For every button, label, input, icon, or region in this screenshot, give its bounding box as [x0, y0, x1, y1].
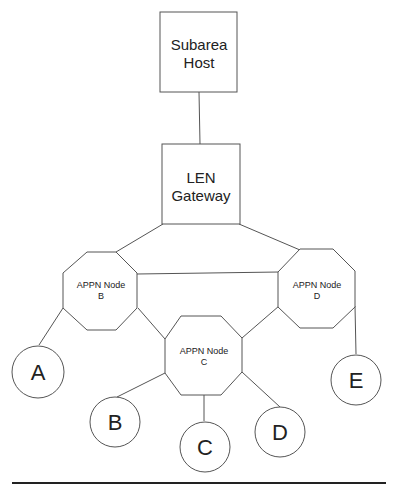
subarea-host-label-line2: Host: [184, 54, 216, 71]
appn-node-c-label-line2: C: [201, 357, 208, 367]
end-node-b: B: [90, 397, 140, 447]
subarea-host-box: Subarea Host: [160, 12, 237, 92]
link-node-d-node-c: [242, 306, 279, 338]
end-node-c: C: [180, 422, 230, 472]
appn-node-d: APPN Node D: [278, 249, 355, 328]
end-node-d-label: D: [272, 420, 288, 445]
link-node-c-end-d: [242, 372, 280, 407]
link-node-b-node-c: [138, 308, 165, 339]
end-node-c-label: C: [197, 435, 213, 460]
appn-node-d-label-line1: APPN Node: [293, 280, 342, 290]
link-node-d-end-e: [355, 306, 356, 354]
end-node-d: D: [255, 407, 305, 457]
appn-node-b: APPN Node B: [63, 252, 137, 330]
link-host-gateway: [199, 92, 200, 144]
len-gateway-label-line1: LEN: [186, 169, 215, 186]
end-node-e-label: E: [349, 368, 364, 393]
end-node-b-label: B: [108, 410, 123, 435]
link-gateway-node-b: [116, 224, 163, 252]
appn-node-c: APPN Node C: [165, 316, 242, 395]
end-node-e: E: [331, 355, 381, 405]
end-node-a: A: [12, 346, 64, 398]
link-node-c-end-b: [117, 373, 165, 397]
network-diagram: Subarea Host LEN Gateway APPN Node B APP…: [0, 0, 396, 489]
appn-node-c-label-line1: APPN Node: [180, 346, 229, 356]
end-node-a-label: A: [31, 360, 46, 385]
subarea-host-label-line1: Subarea: [171, 36, 228, 53]
appn-node-b-label-line1: APPN Node: [77, 280, 126, 290]
len-gateway-label-line2: Gateway: [171, 187, 231, 204]
link-node-b-end-a: [39, 308, 63, 345]
len-gateway-box: LEN Gateway: [162, 144, 240, 224]
link-gateway-node-d: [239, 224, 300, 250]
appn-node-b-label-line2: B: [98, 291, 104, 301]
appn-node-d-label-line2: D: [314, 291, 321, 301]
link-node-b-node-d: [137, 272, 279, 274]
